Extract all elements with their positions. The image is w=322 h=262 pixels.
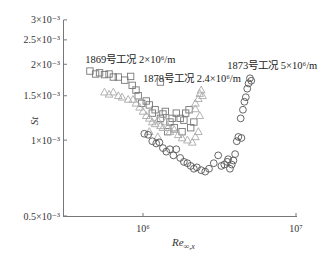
x-axis: 10⁶10⁷ [63,213,303,234]
y-axis-label: St [28,116,40,126]
series-label: 1869号工况 2×10⁶/m [85,54,175,65]
y-tick-label: 2×10⁻³ [31,59,60,70]
x-tick-label: 10⁷ [289,223,303,234]
x-axis-label: Re∞,x [171,236,195,251]
y-tick-label: 1.5×10⁻³ [24,90,60,101]
y-tick-label: 0.5×10⁻³ [24,211,60,222]
y-tick-label: 2.5×10⁻³ [24,34,60,45]
series-label: 1878号工况 2.4×10⁶/m [143,73,241,84]
scatter-chart: 3×10⁻³2.5×10⁻³2×10⁻³1.5×10⁻³1×10⁻³0.5×10… [0,0,322,262]
x-tick-label: 10⁶ [136,223,150,234]
series-triangle [101,86,207,145]
series-label: 1873号工况 5×10⁶/m [227,60,317,71]
y-tick-label: 3×10⁻³ [31,14,60,25]
y-tick-label: 1×10⁻³ [31,135,60,146]
series-annotations: 1869号工况 2×10⁶/m1878号工况 2.4×10⁶/m1873号工况 … [85,54,317,84]
